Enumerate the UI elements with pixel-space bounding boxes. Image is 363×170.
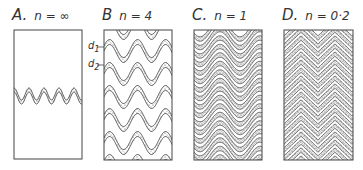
fold-layer [102,63,174,86]
panel-c-folds [192,19,264,169]
fold-layer [102,86,174,109]
panel-a-folds [12,88,84,104]
fold-layer [102,40,174,63]
panels-svg [0,0,363,169]
panel-b-folds [102,17,174,170]
fold-layer [102,132,174,155]
fold-layer [12,88,84,104]
fold-layer [102,17,174,40]
folding-figure: A.n = ∞ Bn = 4 C.n = 1 D.n = 0·2 d1 d2 [0,0,363,169]
panel-d-folds [282,20,355,169]
fold-layer [102,109,174,132]
fold-layer [102,155,174,170]
